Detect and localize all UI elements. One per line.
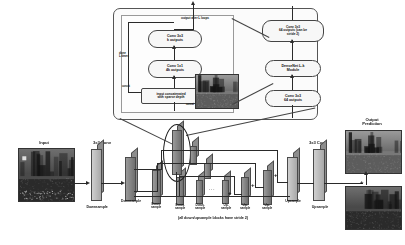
loop-skip-line-top [128,22,174,23]
slab-face [241,177,249,205]
skip-3e [234,194,242,195]
concat-left-label: concat [122,86,138,89]
skip-3c [179,176,235,177]
skip-3d [234,176,235,194]
block-up-2 [241,177,247,203]
up-4-label: Upsample [278,200,308,204]
link-conv3k-to-output [193,16,194,30]
link-conv-to-down1 [101,183,122,184]
input-label: Input [24,141,64,145]
loop-skip-line-bottom [128,92,141,93]
skip-out-1e [277,182,288,183]
output-secondary-photo [345,186,402,230]
arrow-into-conv3k [172,45,176,49]
link-panel-bottom-in [174,102,175,111]
arrow-output-up [364,171,368,175]
arrow-into-conv14k [172,75,176,79]
skip-out-1b [161,150,162,170]
block-skip-node-b [204,163,209,177]
arrow-conv64-up [290,74,294,78]
block-down-4 [196,180,201,202]
link-convstride-out [292,6,293,20]
block-conv3x3-64: Conv 3x3 64 outputs [265,90,321,107]
arrow-densenet-up [290,39,294,43]
left-conv-caption: Downsample [79,206,115,210]
slab-face [196,180,203,204]
down-4-label: Down- sample [190,204,210,210]
skip-3b [179,176,180,197]
link-highlight-down [176,172,177,196]
right-conv-label: 3x3 Conv [298,141,338,145]
arrow-input-to-conv [86,181,90,185]
bottom-rail-2 [230,196,290,197]
block-up-3 [263,170,270,203]
plus-node-2: + [251,182,255,188]
slab-face [125,157,136,201]
slab-face [287,157,298,201]
block-input-concatenated: input concatenated with sparse depth [141,88,201,104]
ellipsis-label: ... [209,186,215,191]
slab-face [263,170,272,205]
loop-count-label: done L times [119,52,135,58]
bottom-rail [134,196,230,197]
plus-node-1: + [228,190,232,196]
link-up4-to-convright [297,183,314,184]
plus-node-3: + [274,172,278,178]
skip-2b [157,163,158,192]
block-conv-right [313,149,323,199]
down-2-label: Down- sample [146,203,166,209]
up-1-label: Up- sample [216,204,236,210]
right-conv-caption: Upsample [303,206,337,210]
block-down-1 [125,157,134,199]
output-after-loops-label: output after L loops [164,17,226,20]
output-prediction-label: Output Prediction [348,118,396,127]
link-densenet-to-convstride [292,40,293,60]
plus-node-output: + [360,179,364,185]
input-photo [18,148,75,202]
up-2-label: Up- sample [235,204,255,210]
link-convright-to-output [324,183,363,184]
up-3-label: Up- sample [257,204,277,210]
skip-2c [157,163,256,164]
skip-2a [134,191,157,192]
block-up-4 [287,157,296,199]
block-skip-node-a [190,146,195,163]
skip-out-1c [161,150,278,151]
block-conv-left [91,149,100,199]
block-up-1 [222,180,227,202]
down-1-label: Downsample [114,200,148,204]
detail-output-arrowhead [191,1,195,5]
skip-2d [255,163,256,187]
slab-face [91,149,102,201]
highlight-ellipse [163,124,191,182]
down-3-label: Down- sample [170,204,190,210]
skip-2e [255,187,264,188]
link-conv3k-out-h [174,29,194,30]
slab-face [313,149,325,201]
stride-footnote: (all down/upsample blocks have stride 2) [128,216,298,220]
output-prediction-photo [345,130,402,174]
